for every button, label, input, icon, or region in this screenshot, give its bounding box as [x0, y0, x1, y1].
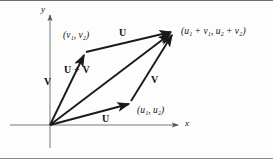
vector-label-u-bottom: U: [102, 114, 109, 124]
x-axis-label: x: [185, 119, 189, 128]
vector-u-from-origin: [50, 104, 129, 125]
point-label-u: (u₁, u₂): [137, 106, 164, 116]
vector-label-v-right: V: [151, 75, 158, 85]
vector-label-u-plus-v: U + V: [64, 65, 90, 75]
vector-v-right-edge: [131, 35, 172, 101]
point-label-u-plus-v: (u₁ + v₁, u₂ + v₂): [181, 27, 246, 37]
vector-addition-figure: y x (v₁, v₂) (u₁, u₂) (u₁ + v₁, u₂ + v₂)…: [0, 0, 273, 159]
vector-diagram-canvas: [0, 1, 273, 159]
vector-label-v-left: V: [44, 77, 51, 87]
point-label-v: (v₁, v₂): [63, 31, 89, 41]
y-axis-label: y: [41, 5, 45, 14]
vector-label-u-top: U: [119, 28, 126, 38]
